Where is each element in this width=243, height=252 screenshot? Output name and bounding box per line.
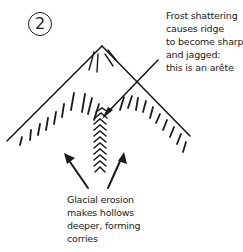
annotation-line: corries [67,232,157,245]
annotation-line: causes ridge [166,22,243,35]
glacial-erosion-annotation: Glacial erosion makes hollows deeper, fo… [67,193,157,245]
annotation-line: deeper, forming [67,219,157,232]
annotation-line: to become sharp [166,35,243,48]
frost-shattering-annotation: Frost shattering causes ridge to become … [166,9,243,74]
annotation-line: this is an arête [166,61,243,74]
annotation-line: makes hollows [67,206,157,219]
annotation-line: and jagged: [166,48,243,61]
annotation-line: Frost shattering [166,9,243,22]
arete-diagram: 2 [0,0,243,252]
annotation-line: Glacial erosion [67,193,157,206]
